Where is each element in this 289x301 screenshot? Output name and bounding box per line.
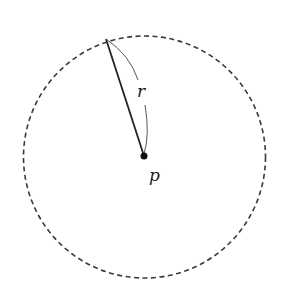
radius-label: r: [137, 81, 146, 101]
center-label: p: [149, 165, 160, 185]
radius-brace-lower: [144, 105, 147, 154]
center-point: [141, 153, 148, 160]
radius-brace-upper: [106, 39, 138, 80]
circle-diagram: r p: [0, 0, 289, 301]
